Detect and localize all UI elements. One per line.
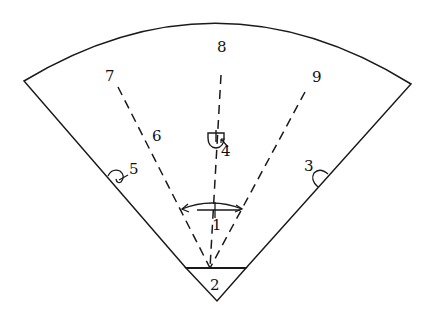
label-4: 4 xyxy=(221,142,231,160)
label-5: 5 xyxy=(129,160,139,178)
label-3: 3 xyxy=(304,157,314,175)
label-7: 7 xyxy=(105,67,115,85)
sector-diagram: 1 2 3 4 5 6 7 8 9 xyxy=(0,0,434,319)
ray-right xyxy=(210,92,305,268)
ray-center xyxy=(210,75,221,268)
label-2: 2 xyxy=(210,276,220,294)
label-1: 1 xyxy=(212,216,222,234)
angle-arc xyxy=(182,203,242,209)
label-9: 9 xyxy=(312,68,322,86)
label-8: 8 xyxy=(217,38,227,56)
label-6: 6 xyxy=(152,127,162,145)
